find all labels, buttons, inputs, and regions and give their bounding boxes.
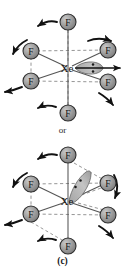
- atom-f-top: F: [60, 14, 76, 30]
- atom-label: F: [65, 18, 70, 28]
- central-atom-label-top: Xe: [61, 62, 74, 74]
- arrow-upper-right: [88, 39, 111, 41]
- dashed-edge-lower: [31, 214, 108, 215]
- arrow-top: [38, 21, 57, 26]
- atom-f-lower-left: F: [23, 206, 39, 222]
- atom-label: F: [105, 78, 110, 88]
- dashed-edge-upper: [31, 50, 108, 51]
- dashed-axis-left-bottom: [31, 222, 62, 240]
- lone-pair-dot-1: [92, 63, 95, 66]
- atom-f-lower-right: F: [100, 74, 116, 90]
- atom-f-lower-right: F: [100, 207, 116, 223]
- structure-bottom: F F F F F: [5, 147, 117, 254]
- atom-f-upper-left: F: [23, 43, 39, 59]
- atom-label: F: [28, 47, 33, 57]
- atom-f-lower-left: F: [23, 73, 39, 89]
- atom-label: F: [105, 179, 110, 189]
- arrow-lower-right: [99, 93, 113, 105]
- atom-label: F: [28, 210, 33, 220]
- lone-pair-dot-2: [92, 70, 95, 73]
- atom-f-upper-right: F: [100, 175, 116, 191]
- arrow-bottom: [38, 239, 56, 241]
- atoms-bottom: F F F F F: [23, 147, 116, 254]
- dashed-edge-upper: [31, 183, 108, 184]
- atom-f-bottom: F: [60, 238, 76, 254]
- or-connector-label: or: [0, 125, 125, 135]
- atom-f-upper-right: F: [100, 42, 116, 58]
- arrow-lower-left: [5, 220, 22, 225]
- dashed-axis-bottom: [31, 222, 62, 240]
- atom-label: F: [105, 211, 110, 221]
- arrow-top: [38, 154, 57, 159]
- arrow-lower-left: [5, 87, 22, 92]
- atom-f-top: F: [60, 147, 76, 163]
- lone-pair-dot-2: [74, 186, 77, 189]
- atom-label: F: [105, 46, 110, 56]
- atom-label: F: [65, 242, 70, 252]
- lone-pair-dot-1: [79, 179, 82, 182]
- central-atom-label-bottom: Xe: [61, 195, 74, 207]
- structure-top: F F F F F: [5, 14, 120, 121]
- atom-f-bottom: F: [60, 105, 76, 121]
- atom-label: F: [28, 77, 33, 87]
- atom-label: F: [65, 151, 70, 161]
- atom-label: F: [65, 109, 70, 119]
- figure-canvas: F F F F F: [0, 0, 125, 271]
- figure-part-label: (c): [0, 256, 125, 266]
- molecular-diagram-svg: F F F F F: [0, 0, 125, 271]
- atom-label: F: [28, 180, 33, 190]
- atom-f-upper-left: F: [23, 176, 39, 192]
- dashed-edge-lower: [31, 81, 108, 82]
- arrow-bottom: [38, 106, 56, 108]
- arrow-lower-right: [99, 226, 113, 238]
